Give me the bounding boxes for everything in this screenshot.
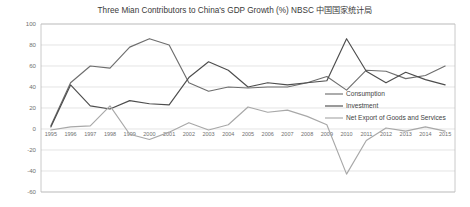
y-tick-label: -40	[27, 167, 36, 174]
y-tick-label: 0	[33, 125, 37, 132]
line-chart-plot: 100806040200-20-40-60 199519961997199819…	[0, 0, 470, 207]
y-tick-label: 40	[29, 83, 36, 90]
legend-item-label: Investment	[346, 102, 378, 109]
x-tick-label: 1996	[64, 131, 76, 137]
x-tick-label: 2013	[400, 131, 412, 137]
x-tick-label: 2007	[281, 131, 293, 137]
x-tick-label: 2010	[340, 131, 352, 137]
y-tick-label: -20	[27, 146, 36, 153]
x-tick-label: 2003	[202, 131, 214, 137]
x-tick-label: 2011	[360, 131, 372, 137]
chart-container: Three Mian Contributors to China's GDP G…	[0, 0, 470, 207]
x-tick-label: 1998	[104, 131, 116, 137]
legend-item-label: Consumption	[346, 90, 385, 98]
legend-item-label: Net Export of Goods and Services	[346, 114, 446, 122]
y-tick-label: -60	[27, 188, 36, 195]
x-axis-tick-labels: 1995199619971998199920002001200220032004…	[45, 131, 452, 137]
x-tick-label: 2004	[222, 131, 234, 137]
y-axis-tick-labels: 100806040200-20-40-60	[26, 20, 37, 195]
x-tick-label: 2008	[301, 131, 313, 137]
x-tick-label: 2012	[380, 131, 392, 137]
y-tick-label: 100	[26, 20, 37, 27]
y-tick-label: 20	[29, 104, 36, 111]
x-tick-label: 2006	[262, 131, 274, 137]
y-tick-label: 80	[29, 41, 36, 48]
x-tick-label: 1995	[45, 131, 57, 137]
x-tick-label: 2002	[183, 131, 195, 137]
x-tick-label: 2005	[242, 131, 254, 137]
x-tick-label: 2000	[143, 131, 155, 137]
x-tick-label: 1997	[84, 131, 96, 137]
y-tick-label: 60	[29, 62, 36, 69]
x-tick-label: 2014	[419, 131, 431, 137]
data-series	[51, 39, 445, 174]
x-tick-label: 2015	[439, 131, 451, 137]
chart-legend: ConsumptionInvestmentNet Export of Goods…	[325, 90, 446, 122]
